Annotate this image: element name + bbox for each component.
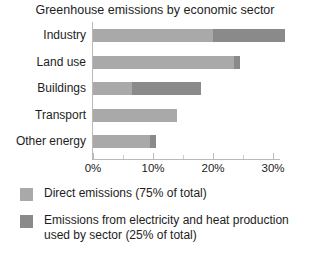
bar-segment-direct	[93, 29, 213, 42]
bar-land-use	[93, 56, 240, 69]
chart-legend: Direct emissions (75% of total) Emission…	[0, 186, 310, 250]
chart-container: Greenhouse emissions by economic sector …	[0, 0, 310, 258]
x-tick-major	[273, 153, 274, 159]
legend-label-direct: Direct emissions (75% of total)	[44, 186, 310, 201]
bar-segment-direct	[93, 109, 177, 122]
category-label-transport: Transport	[0, 108, 86, 122]
legend-label-indirect: Emissions from electricity and heat prod…	[44, 213, 310, 243]
plot-area: 0%10%20%30% IndustryLand useBuildingsTra…	[0, 0, 310, 170]
legend-item-indirect: Emissions from electricity and heat prod…	[0, 213, 310, 243]
category-label-land-use: Land use	[0, 55, 86, 69]
bar-segment-direct	[93, 82, 132, 95]
bar-segment-indirect	[213, 29, 285, 42]
x-axis-line	[92, 159, 280, 160]
bar-segment-direct	[93, 56, 234, 69]
bar-segment-direct	[93, 135, 150, 148]
x-tick-label: 0%	[85, 161, 102, 175]
bar-buildings	[93, 82, 201, 95]
category-label-buildings: Buildings	[0, 81, 86, 95]
bar-transport	[93, 109, 177, 122]
x-tick-major	[213, 153, 214, 159]
category-label-industry: Industry	[0, 28, 86, 42]
legend-swatch-indirect-icon	[20, 215, 33, 228]
bar-segment-indirect	[234, 56, 240, 69]
bar-industry	[93, 29, 285, 42]
x-tick-label: 30%	[261, 161, 284, 175]
x-tick-label: 20%	[201, 161, 224, 175]
category-label-other-energy: Other energy	[0, 134, 86, 148]
x-tick-label: 10%	[141, 161, 164, 175]
x-tick-minor	[123, 155, 124, 159]
bar-other-energy	[93, 135, 156, 148]
bar-segment-indirect	[150, 135, 156, 148]
x-tick-major	[93, 153, 94, 159]
x-tick-minor	[183, 155, 184, 159]
legend-swatch-direct-icon	[20, 188, 33, 201]
legend-item-direct: Direct emissions (75% of total)	[0, 186, 310, 206]
bar-segment-indirect	[132, 82, 201, 95]
x-tick-major	[153, 153, 154, 159]
x-tick-minor	[243, 155, 244, 159]
